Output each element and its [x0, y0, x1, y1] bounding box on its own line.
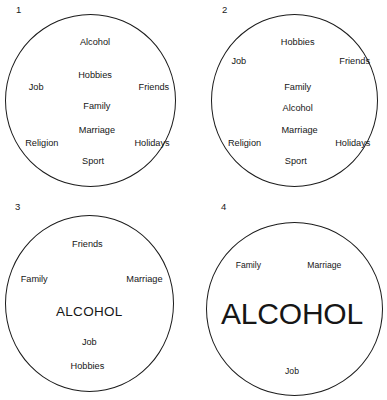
word-alcohol: Alcohol — [80, 38, 110, 47]
word-friends: Friends — [139, 83, 170, 92]
panel-2: 2 HobbiesJobFriendsFamilyAlcoholMarriage… — [197, 0, 387, 195]
word-alcohol: ALCOHOL — [56, 306, 123, 320]
word-alcohol: ALCOHOL — [221, 299, 363, 329]
panel-4-word-layer: FamilyMarriageALCOHOLJob — [197, 196, 387, 400]
panel-1: 1 AlcoholHobbiesJobFriendsFamilyMarriage… — [0, 0, 190, 195]
word-sport: Sport — [82, 157, 104, 166]
word-friends: Friends — [339, 58, 370, 67]
word-job: Job — [29, 83, 44, 92]
panel-3-word-layer: FriendsFamilyMarriageALCOHOLJobHobbies — [0, 196, 190, 400]
word-family: Family — [236, 261, 261, 270]
alcohol-priority-circles-figure: 1 AlcoholHobbiesJobFriendsFamilyMarriage… — [0, 0, 387, 400]
word-hobbies: Hobbies — [281, 38, 315, 47]
word-marriage: Marriage — [281, 126, 317, 135]
word-marriage: Marriage — [307, 261, 341, 270]
word-friends: Friends — [72, 240, 103, 249]
word-family: Family — [284, 83, 311, 92]
word-family: Family — [83, 103, 110, 112]
word-family: Family — [21, 275, 48, 284]
word-holidays: Holidays — [335, 140, 370, 149]
word-marriage: Marriage — [79, 126, 115, 135]
word-hobbies: Hobbies — [78, 71, 112, 80]
word-holidays: Holidays — [134, 140, 169, 149]
word-religion: Religion — [228, 140, 261, 149]
panel-1-word-layer: AlcoholHobbiesJobFriendsFamilyMarriageRe… — [0, 0, 190, 195]
word-job: Job — [285, 367, 299, 376]
panel-3: 3 FriendsFamilyMarriageALCOHOLJobHobbies — [0, 196, 190, 400]
panel-2-word-layer: HobbiesJobFriendsFamilyAlcoholMarriageRe… — [197, 0, 387, 195]
word-hobbies: Hobbies — [71, 363, 105, 372]
word-marriage: Marriage — [126, 275, 162, 284]
word-religion: Religion — [25, 140, 58, 149]
word-job: Job — [231, 58, 246, 67]
word-alcohol: Alcohol — [283, 105, 313, 114]
word-job: Job — [82, 338, 97, 347]
panel-4: 4 FamilyMarriageALCOHOLJob — [197, 196, 387, 400]
word-sport: Sport — [285, 157, 307, 166]
